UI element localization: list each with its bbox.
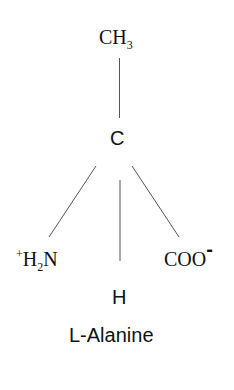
- amino-n: N: [43, 248, 57, 270]
- amino-h: H: [23, 248, 37, 270]
- bond-left: [49, 166, 96, 237]
- bond-right: [132, 166, 179, 237]
- carboxylate-main: COO: [164, 248, 206, 270]
- carboxylate-group-label: COO-: [164, 249, 213, 269]
- methyl-main: CH: [99, 26, 127, 48]
- alpha-carbon-label: C: [110, 128, 124, 148]
- carboxylate-charge: -: [206, 238, 213, 260]
- methyl-subscript: 3: [127, 38, 133, 52]
- amino-group-label: +H2N: [16, 249, 58, 269]
- methyl-group-label: CH3: [99, 27, 133, 47]
- molecule-title: L-Alanine: [69, 325, 154, 345]
- amino-charge: +: [16, 247, 23, 261]
- hydrogen-label: H: [112, 287, 126, 307]
